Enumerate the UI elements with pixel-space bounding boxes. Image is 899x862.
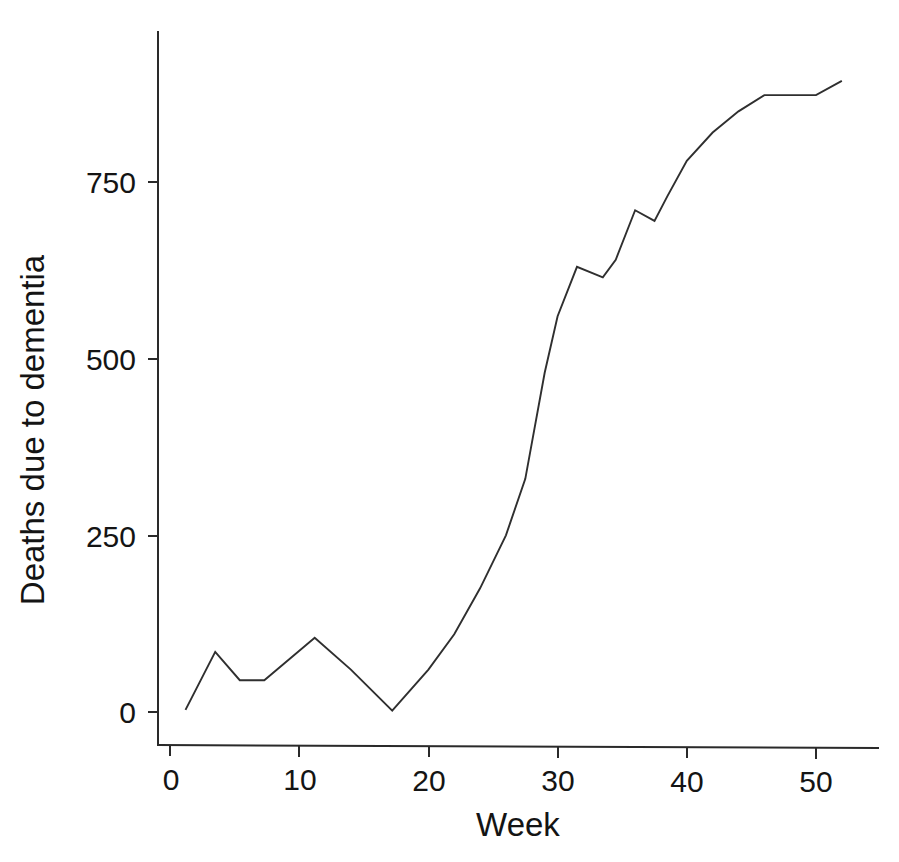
y-axis-title: Deaths due to dementia	[14, 254, 51, 605]
x-tick-label-50: 50	[799, 765, 832, 798]
y-tick-label-500: 500	[86, 343, 136, 376]
x-tick-label-30: 30	[541, 764, 574, 797]
y-tick-label-0: 0	[119, 696, 136, 729]
line-chart: 750 500 250 0 0 10 20 30 40 50 Week Deat…	[0, 0, 899, 862]
data-series-line	[186, 81, 842, 711]
x-axis-title: Week	[476, 806, 560, 843]
x-tick-label-20: 20	[412, 764, 445, 797]
chart-figure: 750 500 250 0 0 10 20 30 40 50 Week Deat…	[0, 0, 899, 862]
x-tick-label-40: 40	[670, 765, 703, 798]
y-tick-label-250: 250	[86, 520, 136, 553]
y-tick-label-750: 750	[86, 166, 136, 199]
x-axis-line	[158, 745, 878, 748]
x-tick-label-0: 0	[163, 763, 180, 796]
x-tick-label-10: 10	[283, 763, 316, 796]
